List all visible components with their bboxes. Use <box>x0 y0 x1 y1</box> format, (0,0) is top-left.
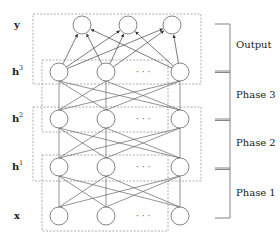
phase-label-2: Phase 2 <box>236 137 276 148</box>
output-node <box>119 16 137 34</box>
edges <box>59 81 180 207</box>
output-node <box>73 16 91 34</box>
h2-node <box>97 110 115 128</box>
h1-node <box>50 158 68 176</box>
ellipsis-h3: · · · <box>136 67 150 77</box>
label-h3-sup: 3 <box>19 64 23 72</box>
ellipsis-x: · · · <box>136 211 150 221</box>
ellipsis-h1: · · · <box>136 162 150 172</box>
phase-label-3: Phase 3 <box>236 89 276 100</box>
network-diagram: · · · · · · · · · · · · y h 3 h 2 h 1 x … <box>0 0 280 243</box>
input-node <box>50 207 68 225</box>
phase-label-output: Output <box>236 39 272 50</box>
h1-node <box>97 158 115 176</box>
label-y: y <box>13 19 21 30</box>
output-arrows <box>63 29 179 69</box>
h3-node <box>97 63 115 81</box>
label-h1-sup: 1 <box>19 159 23 167</box>
label-h2-sup: 2 <box>19 111 23 119</box>
h1-node <box>171 158 189 176</box>
input-node <box>171 207 189 225</box>
phase-labels: Output Phase 3 Phase 2 Phase 1 <box>236 39 276 198</box>
input-node <box>97 207 115 225</box>
label-x: x <box>14 210 21 221</box>
output-node <box>163 16 181 34</box>
h2-node <box>171 110 189 128</box>
h3-node <box>171 63 189 81</box>
ellipsis-h2: · · · <box>136 114 150 124</box>
phase-bracket <box>215 24 230 218</box>
phase-label-1: Phase 1 <box>236 187 276 198</box>
layer-labels: y h 3 h 2 h 1 x <box>12 19 23 221</box>
h2-node <box>50 110 68 128</box>
h3-node <box>50 63 68 81</box>
